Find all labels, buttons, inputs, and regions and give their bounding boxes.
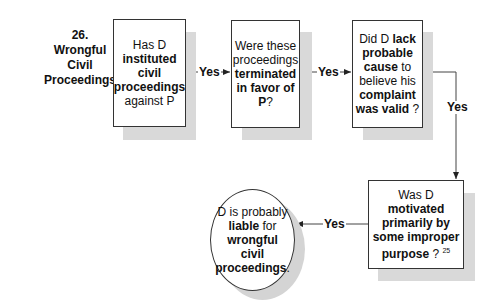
node-text: D is probably	[217, 205, 287, 219]
node-text: ?	[409, 102, 419, 116]
node-result-liable: D is probably liable for wrongful civil …	[210, 189, 295, 291]
node-q1-instituted-proceedings: Has D instituted civil proceedings again…	[113, 19, 186, 127]
node-text: for	[259, 219, 276, 233]
node-text: Did D	[359, 32, 392, 46]
node-text: .	[287, 261, 290, 275]
node-text: Were these proceedings	[233, 39, 298, 67]
footnote-marker: 25	[442, 247, 450, 254]
node-text-bold: wrongful civil proceedings	[215, 233, 286, 275]
node-text: against P	[124, 94, 174, 108]
node-q2-terminated-in-favor: Were these proceedings terminated in fav…	[231, 20, 300, 128]
edge-label-q3-q4: Yes	[446, 101, 469, 114]
node-text-bold: instituted civil proceedings	[114, 52, 185, 94]
node-text: Has D	[133, 38, 166, 52]
edge-label-q4-result: Yes	[323, 218, 346, 231]
node-text-bold: liable	[228, 219, 259, 233]
edge-label-q2-q3: Yes	[317, 66, 340, 79]
node-text: ?	[429, 247, 439, 261]
node-text-bold: complaint was valid	[356, 88, 416, 116]
node-text: ?	[266, 95, 273, 109]
node-q3-lack-probable-cause: Did D lack probable cause to believe his…	[352, 20, 423, 128]
node-text: Was D	[398, 188, 434, 202]
node-q4-improper-purpose: Was D motivated primarily by some improp…	[368, 180, 464, 269]
edge-label-q1-q2: Yes	[198, 66, 221, 79]
